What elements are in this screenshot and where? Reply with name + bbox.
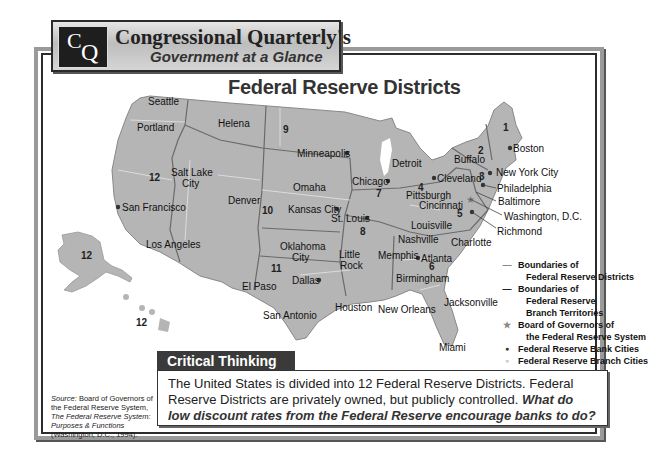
city-label-buffalo: Buffalo [454, 154, 485, 165]
source-citation: Source: Board of Governors of the Federa… [51, 394, 161, 439]
city-label-denver: Denver [228, 195, 260, 206]
city-label-salt-lake: Salt Lake [171, 167, 213, 178]
legend-item-branch-boundaries: — Boundaries of [498, 283, 648, 295]
critical-thinking-heading: Critical Thinking [157, 351, 295, 371]
legend-item-bank-cities: ● Federal Reserve Bank Cities [498, 343, 648, 355]
city-label-miami: Miami [439, 342, 466, 353]
branch-boundary-line-icon: — [501, 283, 513, 295]
critical-thinking-body: The United States is divided into 12 Fed… [168, 376, 573, 407]
legend-text: Federal Reserve Districts [498, 271, 648, 283]
source-text: (Washington, D.C., 1994). [51, 430, 137, 439]
city-label-seattle: Seattle [148, 96, 179, 107]
city-label-little-rock: Rock [340, 260, 363, 271]
city-label-new-orleans: New Orleans [378, 304, 436, 315]
city-label-boston: Boston [513, 143, 544, 154]
city-label-charlotte: Charlotte [451, 237, 492, 248]
district-number-10: 10 [262, 205, 273, 216]
city-label-los-angeles: Los Angeles [146, 239, 201, 250]
city-label-el-paso: El Paso [242, 281, 276, 292]
district-number-12-hawaii: 12 [136, 317, 147, 328]
city-label-cleveland: Cleveland [437, 173, 481, 184]
legend-item-branch-cities: ● Federal Reserve Branch Cities [498, 355, 648, 367]
city-label-jacksonville: Jacksonville [444, 297, 498, 308]
city-label-salt-lake-city: City [182, 178, 199, 189]
legend-item-board-of-governors: ★ Board of Governors of [498, 319, 648, 331]
city-label-oklahoma-city: City [292, 252, 309, 263]
district-number-12-alaska: 12 [81, 250, 92, 261]
city-label-omaha: Omaha [293, 182, 326, 193]
city-label-minneapolis: Minneapolis [297, 148, 350, 159]
alaska-landmass [58, 232, 132, 292]
city-label-san-francisco: San Francisco [122, 202, 186, 213]
city-label-atlanta: Atlanta [421, 253, 452, 264]
district-boundary-line-icon: — [501, 259, 513, 271]
city-label-richmond: Richmond [497, 226, 542, 237]
city-label-houston: Houston [335, 302, 372, 313]
city-label-philadelphia: Philadelphia [497, 183, 552, 194]
city-label-detroit: Detroit [392, 158, 421, 169]
city-label-dallas: Dallas [292, 275, 320, 286]
city-label-new-york-city: New York City [496, 167, 558, 178]
district-number-11: 11 [271, 263, 282, 274]
city-label-baltimore: Baltimore [498, 196, 540, 207]
district-number-12: 12 [149, 172, 160, 183]
city-label-san-antonio: San Antonio [263, 310, 317, 321]
legend-text: Federal Reserve [498, 295, 648, 307]
city-label-chicago: Chicago [352, 176, 389, 187]
legend-text: the Federal Reserve System [498, 331, 648, 343]
city-label-little: Little [339, 249, 360, 260]
map-legend: — Boundaries of Federal Reserve District… [498, 259, 648, 367]
city-label-portland: Portland [137, 122, 174, 133]
district-number-1: 1 [503, 122, 509, 133]
city-label-memphis: Memphis [378, 250, 419, 261]
legend-text: Branch Territories [498, 307, 648, 319]
city-label-nashville: Nashville [398, 234, 439, 245]
city-label-kansas-city: Kansas City [288, 204, 341, 215]
district-number-7: 7 [376, 188, 382, 199]
city-label-helena: Helena [218, 118, 250, 129]
city-label-cincinnati: Cincinnati [419, 200, 463, 211]
district-number-8: 8 [360, 226, 366, 237]
city-label-oklahoma: Oklahoma [280, 241, 326, 252]
star-icon: ★ [501, 319, 513, 331]
city-label-washington-dc: Washington, D.C. [504, 211, 582, 222]
district-number-9: 9 [283, 124, 289, 135]
city-label-birmingham: Birmingham [396, 273, 449, 284]
source-label: Source: [51, 394, 77, 403]
legend-item-district-boundaries: — Boundaries of [498, 259, 648, 271]
critical-thinking-box: The United States is divided into 12 Fed… [157, 370, 608, 426]
contiguous-us-landmass [112, 96, 522, 346]
source-title: The Federal Reserve System: Purposes & F… [51, 412, 151, 430]
bank-city-dot-icon: ● [501, 343, 513, 355]
city-label-louisville: Louisville [411, 220, 452, 231]
branch-city-dot-icon: ● [501, 355, 513, 367]
